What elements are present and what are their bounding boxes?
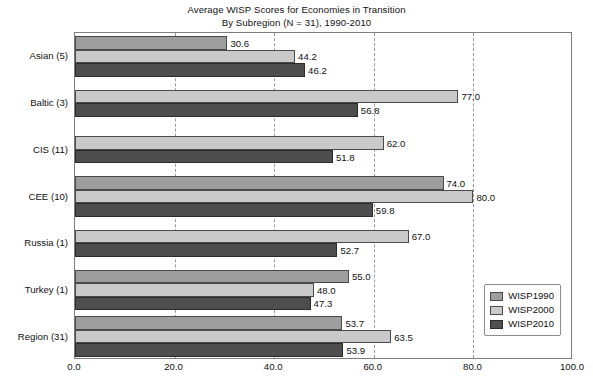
bar-row: 62.0 — [75, 136, 571, 150]
bar-value-label: 62.0 — [384, 138, 406, 149]
y-axis-label-baltic: Baltic (3) — [0, 97, 68, 108]
bar-row: 77.0 — [75, 90, 571, 104]
legend-label: WISP1990 — [508, 291, 554, 301]
bar-row: 67.0 — [75, 230, 571, 244]
bar-value-label: 46.2 — [305, 64, 327, 75]
bar-wisp2000-region[interactable] — [75, 330, 391, 344]
bar-row: 44.2 — [75, 50, 571, 64]
legend-item-wisp2010[interactable]: WISP2010 — [490, 317, 554, 331]
bar-value-label: 51.8 — [333, 151, 355, 162]
bar-wisp2000-russia[interactable] — [75, 230, 409, 244]
bar-value-label: 48.0 — [314, 284, 336, 295]
bar-value-label: 53.9 — [343, 345, 365, 356]
bar-row: 80.0 — [75, 190, 571, 204]
chart-legend[interactable]: WISP1990WISP2000WISP2010 — [484, 284, 561, 336]
bar-value-label: 56.8 — [358, 104, 380, 115]
chart-title: Average WISP Scores for Economies in Tra… — [0, 4, 593, 17]
bar-value-label: 52.7 — [337, 244, 359, 255]
bar-wisp2010-russia[interactable] — [75, 243, 337, 257]
bar-wisp1990-turkey[interactable] — [75, 270, 349, 284]
bar-row: 55.0 — [75, 270, 571, 284]
x-tick-label-40: 40.0 — [264, 361, 283, 372]
bar-value-label: 53.7 — [342, 318, 364, 329]
bar-row: 56.8 — [75, 103, 571, 117]
bar-value-label: 55.0 — [349, 271, 371, 282]
bar-value-label: 44.2 — [295, 51, 317, 62]
bar-wisp2000-asian[interactable] — [75, 50, 295, 64]
bar-value-label: 74.0 — [444, 178, 466, 189]
bar-value-label: 63.5 — [391, 331, 413, 342]
chart-title-block: Average WISP Scores for Economies in Tra… — [0, 4, 593, 29]
chart-subtitle: By Subregion (N = 31), 1990-2010 — [0, 17, 593, 30]
bar-wisp2010-cis[interactable] — [75, 150, 333, 164]
bar-value-label: 80.0 — [473, 191, 495, 202]
bar-row: 52.7 — [75, 243, 571, 257]
bar-wisp1990-region[interactable] — [75, 316, 342, 330]
bar-wisp2010-cee[interactable] — [75, 203, 373, 217]
y-axis-label-region: Region (31) — [0, 330, 68, 341]
x-tick-label-20: 20.0 — [164, 361, 183, 372]
legend-swatch-icon — [490, 306, 503, 315]
legend-item-wisp2000[interactable]: WISP2000 — [490, 303, 554, 317]
x-tick-label-100: 100.0 — [560, 361, 584, 372]
bar-wisp2000-cee[interactable] — [75, 190, 473, 204]
bar-row: 30.6 — [75, 36, 571, 50]
bar-wisp2000-turkey[interactable] — [75, 283, 314, 297]
bar-value-label: 67.0 — [409, 231, 431, 242]
bar-row: 51.8 — [75, 150, 571, 164]
wisp-bar-chart: Average WISP Scores for Economies in Tra… — [0, 0, 593, 385]
bar-wisp1990-asian[interactable] — [75, 36, 227, 50]
legend-item-wisp1990[interactable]: WISP1990 — [490, 289, 554, 303]
bar-wisp2010-asian[interactable] — [75, 63, 305, 77]
legend-label: WISP2010 — [508, 319, 554, 329]
bar-row: 46.2 — [75, 63, 571, 77]
bar-value-label: 47.3 — [311, 298, 333, 309]
bar-wisp2000-baltic[interactable] — [75, 90, 458, 104]
plot-area: 30.644.246.277.056.862.051.874.080.059.8… — [74, 32, 572, 359]
legend-swatch-icon — [490, 320, 503, 329]
y-axis-label-cis: CIS (11) — [0, 143, 68, 154]
bar-value-label: 77.0 — [458, 91, 480, 102]
bar-wisp2000-cis[interactable] — [75, 136, 384, 150]
legend-label: WISP2000 — [508, 305, 554, 315]
bar-value-label: 59.8 — [373, 205, 395, 216]
bar-wisp1990-cee[interactable] — [75, 176, 444, 190]
bar-row: 53.9 — [75, 343, 571, 357]
y-axis-label-turkey: Turkey (1) — [0, 283, 68, 294]
bar-wisp2010-baltic[interactable] — [75, 103, 358, 117]
bar-wisp2010-region[interactable] — [75, 343, 343, 357]
bar-wisp2010-turkey[interactable] — [75, 297, 311, 311]
bar-row: 59.8 — [75, 203, 571, 217]
bar-value-label: 30.6 — [227, 37, 249, 48]
x-tick-label-80: 80.0 — [463, 361, 482, 372]
x-tick-label-60: 60.0 — [363, 361, 382, 372]
bar-row: 74.0 — [75, 176, 571, 190]
y-axis-label-cee: CEE (10) — [0, 190, 68, 201]
x-tick-label-0: 0.0 — [67, 361, 80, 372]
x-axis: 0.020.040.060.080.0100.0 — [74, 359, 572, 383]
y-axis-label-russia: Russia (1) — [0, 237, 68, 248]
legend-swatch-icon — [490, 292, 503, 301]
y-axis-label-asian: Asian (5) — [0, 50, 68, 61]
